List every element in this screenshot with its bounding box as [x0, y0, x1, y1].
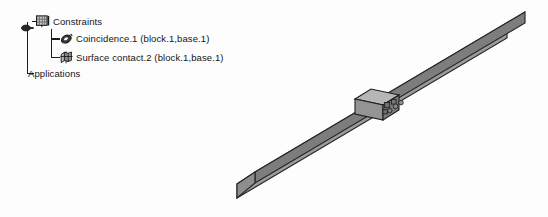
screenshot-root: Constraints Coincidence.1 (block.1,base.… — [0, 0, 548, 217]
constraints-folder-icon — [36, 15, 50, 28]
tree-node-coincidence[interactable]: Coincidence.1 (block.1,base.1) — [60, 33, 209, 45]
specification-tree[interactable]: Constraints Coincidence.1 (block.1,base.… — [0, 0, 250, 90]
tree-node-label: Constraints — [53, 17, 102, 27]
tree-node-constraints[interactable]: Constraints — [36, 15, 102, 28]
tree-root-handle-icon[interactable] — [21, 18, 34, 26]
tree-node-label: Applications — [28, 69, 80, 79]
tree-node-label: Coincidence.1 (block.1,base.1) — [76, 34, 209, 44]
isometric-model — [215, 0, 548, 217]
tree-node-applications[interactable]: Applications — [28, 69, 80, 79]
tree-node-surface-contact[interactable]: Surface contact.2 (block.1,base.1) — [60, 51, 224, 64]
surface-contact-constraint-icon — [60, 51, 73, 64]
tree-node-label: Surface contact.2 (block.1,base.1) — [76, 53, 224, 63]
3d-viewport[interactable] — [215, 0, 548, 217]
coincidence-constraint-icon — [60, 33, 73, 45]
